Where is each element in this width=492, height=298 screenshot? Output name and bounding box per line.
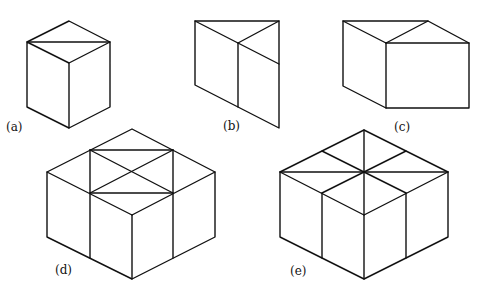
panel-a-label: (a) [6, 120, 23, 134]
figure-canvas: (a) (b) (c) (d) [0, 0, 492, 298]
panel-d-composite [47, 129, 215, 279]
panel-c-label: (c) [394, 120, 410, 134]
panel-b-wedge [195, 21, 279, 128]
panel-d-label: (d) [55, 263, 72, 277]
panel-e-label: (e) [290, 264, 306, 278]
panel-a-cube [27, 21, 110, 128]
panel-e-composite [280, 130, 448, 279]
panel-b-label: (b) [223, 119, 240, 133]
panel-c-prism [343, 21, 469, 108]
